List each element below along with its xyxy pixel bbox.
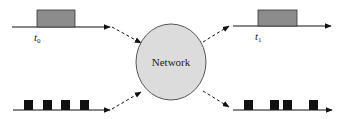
packet — [270, 100, 279, 110]
signal-bottom-left — [13, 100, 110, 110]
signal-top-right: t1 — [233, 10, 331, 44]
packet — [43, 100, 52, 110]
network-label: Network — [152, 56, 191, 68]
dashed-arrow-out-top — [203, 26, 229, 42]
packet — [61, 100, 70, 110]
dashed-arrow-out-bottom — [203, 91, 229, 107]
dashed-arrow-in-bottom — [112, 92, 141, 109]
packet — [80, 100, 89, 110]
time-label: t1 — [255, 30, 262, 44]
packet — [24, 100, 33, 110]
dashed-arrow-in-top — [112, 27, 141, 43]
pulse-rect — [37, 10, 75, 27]
signal-bottom-right — [233, 100, 332, 110]
signal-top-left: t0 — [12, 10, 110, 45]
packet — [244, 100, 253, 110]
pulse-rect — [258, 10, 297, 26]
network-diagram: t0t1 Network — [0, 0, 353, 119]
time-label: t0 — [34, 31, 41, 45]
packet — [283, 100, 292, 110]
packet — [309, 100, 318, 110]
